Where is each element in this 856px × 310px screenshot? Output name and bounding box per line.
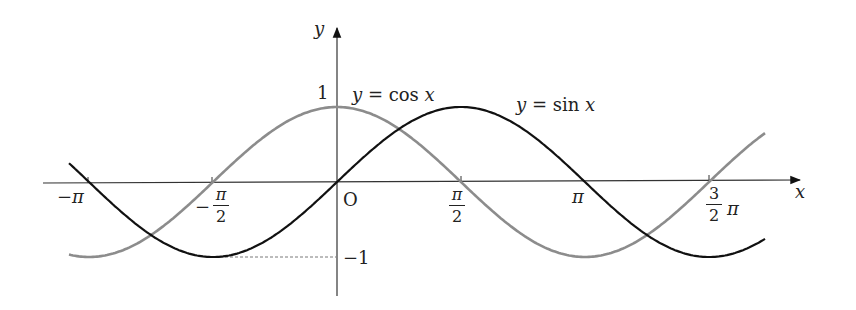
x-tick-half-pi: π 2 bbox=[449, 187, 465, 225]
frac-num: π bbox=[452, 187, 463, 203]
sin-curve-label: y = sin x bbox=[516, 96, 595, 114]
sin-label-y: y bbox=[516, 94, 526, 115]
x-axis-label: x bbox=[795, 183, 805, 201]
cos-curve-label: y = cos x bbox=[352, 86, 435, 104]
y-axis-label: y bbox=[314, 20, 324, 38]
sin-label-x: x bbox=[585, 94, 595, 115]
x-tick-neg-half-pi-sign: − bbox=[195, 196, 210, 217]
sin-label-eq: = sin bbox=[526, 94, 585, 115]
cos-label-y: y bbox=[352, 84, 362, 105]
cos-label-x: x bbox=[425, 84, 435, 105]
frac-num: π bbox=[216, 187, 227, 203]
frac-bar bbox=[449, 205, 465, 206]
x-axis bbox=[43, 180, 800, 183]
y-tick-neg1: −1 bbox=[343, 249, 370, 267]
x-tick-neg-pi: −π bbox=[57, 188, 84, 206]
frac-den: 2 bbox=[216, 209, 226, 225]
y-tick-1: 1 bbox=[317, 84, 328, 102]
frac-den: 2 bbox=[709, 208, 719, 224]
origin-label: O bbox=[343, 191, 358, 209]
frac-bar bbox=[213, 205, 229, 206]
trig-plot bbox=[0, 0, 856, 310]
frac-den: 2 bbox=[452, 209, 462, 225]
frac-num: 3 bbox=[709, 186, 719, 202]
x-tick-pi: π bbox=[572, 188, 584, 206]
cos-label-eq: = cos bbox=[362, 84, 424, 105]
x-tick-three-half-pi: 3 2 bbox=[706, 186, 722, 224]
x-tick-three-half-pi-symbol: π bbox=[727, 200, 739, 218]
frac-bar bbox=[706, 204, 722, 205]
x-tick-neg-half-pi: π 2 bbox=[213, 187, 229, 225]
